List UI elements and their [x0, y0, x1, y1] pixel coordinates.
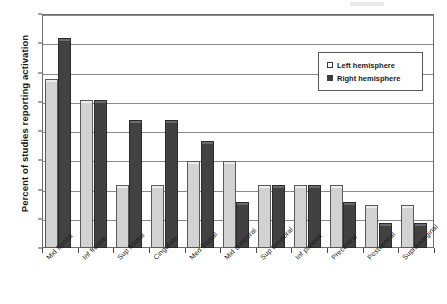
x-tick-mark	[185, 248, 186, 253]
x-tick-mark	[434, 248, 435, 253]
y-tick-mark-80	[38, 14, 42, 15]
x-tick-mark	[327, 248, 328, 253]
gridline-40	[43, 132, 433, 133]
legend-item-right-hemisphere: Right hemisphere	[327, 72, 416, 84]
y-tick-mark-10	[38, 218, 42, 219]
x-tick-mark	[149, 248, 150, 253]
y-tick-mark-40	[38, 131, 42, 132]
y-tick-mark-30	[38, 160, 42, 161]
chart-legend: Left hemisphere Right hemisphere	[318, 52, 423, 91]
x-tick-mark	[256, 248, 257, 253]
x-tick-mark	[78, 248, 79, 253]
scan-artifact	[350, 2, 384, 6]
gridline-70	[43, 44, 433, 45]
legend-swatch-left-icon	[327, 62, 333, 68]
x-tick-mark	[363, 248, 364, 253]
gridline-10	[43, 220, 433, 221]
x-tick-mark	[291, 248, 292, 253]
legend-item-left-hemisphere: Left hemisphere	[327, 59, 416, 71]
gridline-30	[43, 161, 433, 162]
x-tick-mark	[113, 248, 114, 253]
y-tick-mark-60	[38, 72, 42, 73]
gridline-50	[43, 103, 433, 104]
legend-swatch-right-icon	[327, 75, 333, 81]
gridline-80	[43, 15, 433, 16]
x-tick-mark	[42, 248, 43, 253]
x-tick-mark	[220, 248, 221, 253]
y-tick-mark-50	[38, 101, 42, 102]
gridline-20	[43, 191, 433, 192]
legend-label-right-hemisphere: Right hemisphere	[337, 74, 400, 83]
y-axis-title: Percent of studies reporting activation	[19, 4, 30, 244]
legend-label-left-hemisphere: Left hemisphere	[337, 61, 395, 70]
y-tick-mark-20	[38, 189, 42, 190]
x-tick-mark	[398, 248, 399, 253]
y-tick-mark-70	[38, 43, 42, 44]
bar-chart: Percent of studies reporting activation …	[0, 0, 447, 304]
plot-area	[42, 14, 434, 248]
